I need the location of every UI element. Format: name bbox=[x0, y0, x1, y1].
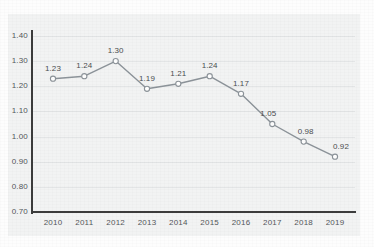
data-point-label: 1.21 bbox=[163, 69, 193, 78]
y-tick-label: 0.80 bbox=[0, 182, 28, 191]
x-axis-line bbox=[31, 211, 356, 213]
data-point-marker bbox=[113, 59, 118, 64]
data-point-marker bbox=[50, 76, 55, 81]
data-point-label: 1.17 bbox=[226, 79, 256, 88]
line-series-svg bbox=[0, 0, 374, 247]
y-tick-label: 0.70 bbox=[0, 207, 28, 216]
data-point-marker bbox=[332, 154, 337, 159]
data-point-label: 1.24 bbox=[195, 61, 225, 70]
series-markers bbox=[50, 59, 337, 160]
chart-screenshot: 1.401.301.201.101.000.900.800.70 2010201… bbox=[0, 0, 374, 247]
x-tick-label: 2019 bbox=[318, 218, 352, 227]
x-tick-label: 2018 bbox=[287, 218, 321, 227]
data-point-marker bbox=[301, 139, 306, 144]
data-point-label: 0.92 bbox=[326, 142, 356, 151]
data-point-marker bbox=[176, 81, 181, 86]
y-tick-label: 1.30 bbox=[0, 56, 28, 65]
x-tick-label: 2013 bbox=[130, 218, 164, 227]
y-tick-label: 1.10 bbox=[0, 106, 28, 115]
data-point-label: 1.05 bbox=[253, 109, 283, 118]
y-tick-label: 1.20 bbox=[0, 81, 28, 90]
x-tick-label: 2014 bbox=[161, 218, 195, 227]
data-point-marker bbox=[238, 91, 243, 96]
data-point-label: 1.23 bbox=[38, 64, 68, 73]
data-point-label: 0.98 bbox=[291, 127, 321, 136]
y-tick-label: 0.90 bbox=[0, 157, 28, 166]
data-point-label: 1.24 bbox=[69, 61, 99, 70]
x-tick-label: 2010 bbox=[36, 218, 70, 227]
x-tick-label: 2017 bbox=[255, 218, 289, 227]
x-tick-label: 2015 bbox=[193, 218, 227, 227]
y-tick-label: 1.00 bbox=[0, 132, 28, 141]
data-point-marker bbox=[144, 86, 149, 91]
x-tick-label: 2012 bbox=[99, 218, 133, 227]
data-point-marker bbox=[207, 74, 212, 79]
y-axis-line bbox=[31, 30, 33, 214]
data-point-label: 1.19 bbox=[132, 74, 162, 83]
data-point-label: 1.30 bbox=[101, 46, 131, 55]
data-point-marker bbox=[270, 121, 275, 126]
series-line bbox=[53, 61, 335, 157]
data-point-marker bbox=[82, 74, 87, 79]
y-tick-label: 1.40 bbox=[0, 31, 28, 40]
x-tick-label: 2011 bbox=[67, 218, 101, 227]
x-tick-label: 2016 bbox=[224, 218, 258, 227]
